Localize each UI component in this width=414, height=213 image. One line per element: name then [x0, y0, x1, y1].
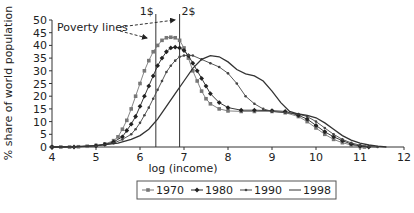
- marker-dot: [359, 144, 362, 147]
- x-tick-label: 12: [397, 151, 411, 164]
- poverty-line-label: 1$: [140, 5, 154, 18]
- income-distribution-chart: % share of world population 051015202530…: [0, 0, 414, 213]
- y-tick-label: 40: [33, 39, 47, 52]
- x-tick-label: 6: [137, 151, 144, 164]
- marker-dot: [245, 189, 248, 192]
- poverty-line-label: 2$: [182, 5, 196, 18]
- y-tick-label: 25: [33, 78, 47, 91]
- poverty-lines: 1$2$Poverty lines: [57, 5, 196, 147]
- marker-square: [151, 50, 155, 54]
- marker-square: [195, 79, 199, 83]
- marker-square: [138, 82, 142, 86]
- marker-diamond: [151, 73, 156, 78]
- marker-square: [209, 102, 213, 106]
- x-tick-label: 5: [93, 151, 100, 164]
- marker-dot: [156, 89, 159, 92]
- series-1970: [50, 35, 366, 148]
- marker-dot: [165, 71, 168, 74]
- y-tick-label: 30: [33, 65, 47, 78]
- marker-dot: [253, 103, 256, 106]
- marker-square: [169, 35, 173, 39]
- x-tick-label: 4: [49, 151, 56, 164]
- marker-dot: [148, 106, 151, 109]
- marker-dot: [209, 62, 212, 65]
- marker-dot: [143, 114, 146, 117]
- marker-dot: [121, 138, 124, 141]
- marker-square: [217, 107, 221, 111]
- y-tick-label: 5: [40, 128, 47, 141]
- legend-label: 1980: [205, 184, 233, 197]
- x-tick-label: 9: [269, 151, 276, 164]
- marker-dot: [332, 133, 335, 136]
- y-tick-label: 10: [33, 116, 47, 129]
- marker-dot: [315, 120, 318, 123]
- marker-dot: [227, 72, 230, 75]
- marker-dot: [244, 95, 247, 98]
- marker-diamond: [173, 45, 178, 50]
- y-axis-title: % share of world population: [2, 6, 15, 160]
- data-series: [50, 35, 387, 149]
- x-tick-label: 8: [225, 151, 232, 164]
- marker-dot: [187, 54, 190, 57]
- annotation-arrow: [120, 20, 175, 27]
- y-tick-label: 35: [33, 52, 47, 65]
- marker-diamond: [204, 84, 209, 89]
- marker-square: [165, 36, 169, 40]
- marker-dot: [262, 108, 265, 111]
- marker-diamond: [142, 94, 147, 99]
- marker-dot: [161, 80, 164, 83]
- marker-square: [121, 127, 125, 131]
- marker-square: [200, 89, 204, 93]
- marker-dot: [284, 111, 287, 114]
- marker-square: [147, 59, 151, 63]
- marker-dot: [192, 54, 195, 57]
- marker-dot: [218, 66, 221, 69]
- y-tick-label: 45: [33, 27, 47, 40]
- series-1980: [50, 45, 372, 150]
- marker-dot: [324, 127, 327, 130]
- y-tick-label: 20: [33, 90, 47, 103]
- marker-diamond: [133, 114, 138, 119]
- series-line: [52, 55, 378, 147]
- marker-dot: [236, 82, 239, 85]
- marker-dot: [130, 133, 133, 136]
- x-tick-label: 10: [309, 151, 323, 164]
- x-tick-label: 11: [353, 151, 367, 164]
- marker-dot: [170, 64, 173, 67]
- marker-dot: [134, 128, 137, 131]
- y-tick-label: 15: [33, 103, 47, 116]
- y-axis-label: % share of world population: [2, 6, 15, 160]
- marker-square: [160, 39, 164, 43]
- marker-dot: [139, 122, 142, 125]
- legend-label: 1998: [303, 184, 331, 197]
- marker-diamond: [146, 84, 151, 89]
- marker-square: [146, 188, 150, 192]
- marker-square: [129, 107, 133, 111]
- marker-diamond: [199, 76, 204, 81]
- y-tick-label: 0: [40, 141, 47, 154]
- legend: 1970198019901998: [137, 181, 336, 199]
- legend-label: 1990: [254, 184, 282, 197]
- marker-diamond: [138, 104, 143, 109]
- y-tick-label: 50: [33, 14, 47, 27]
- marker-square: [125, 119, 129, 123]
- marker-square: [204, 97, 208, 101]
- marker-square: [173, 36, 177, 40]
- marker-dot: [152, 97, 155, 100]
- marker-dot: [350, 142, 353, 145]
- marker-square: [156, 44, 160, 48]
- x-axis-title: log (income): [148, 162, 217, 175]
- marker-diamond: [195, 68, 200, 73]
- legend-label: 1970: [156, 184, 184, 197]
- marker-dot: [178, 56, 181, 59]
- marker-dot: [174, 59, 177, 62]
- marker-dot: [341, 138, 344, 141]
- marker-square: [178, 39, 182, 43]
- marker-diamond: [177, 46, 182, 51]
- poverty-lines-label: Poverty lines: [57, 21, 128, 34]
- series-line: [52, 37, 364, 147]
- marker-square: [134, 94, 138, 98]
- marker-dot: [183, 54, 186, 57]
- marker-square: [143, 69, 147, 73]
- marker-dot: [271, 110, 274, 113]
